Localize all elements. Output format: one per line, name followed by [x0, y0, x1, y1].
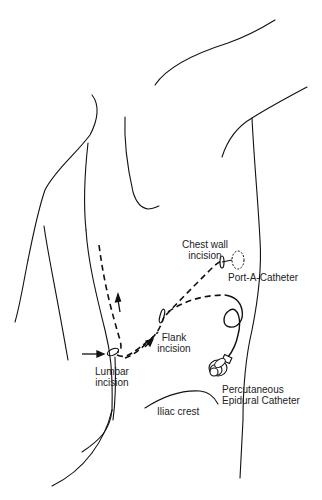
lumbar-pointer-arrow-icon — [97, 351, 104, 357]
armpit-contour — [125, 117, 159, 209]
epidural-connector-icon — [209, 355, 232, 376]
chest-wall-label-line2: incision — [180, 250, 230, 261]
chest-wall-label-line1: Chest wall — [180, 239, 230, 250]
epidural-label-line1: Percutaneous — [222, 384, 300, 395]
buttock-contour — [52, 410, 112, 486]
anatomical-diagram: Chest wall incision Port-A-Catheter Flan… — [0, 0, 322, 500]
front-contour — [240, 118, 261, 478]
epidural-label-line2: Epidural Catheter — [222, 395, 300, 406]
back-contour-outer — [15, 260, 28, 322]
back-line-left — [44, 226, 68, 360]
catheter-coil — [224, 295, 242, 357]
epidural-catheter-label: Percutaneous Epidural Catheter — [222, 384, 300, 406]
flank-incision-label: Flank incision — [152, 332, 196, 354]
flank-label-line2: incision — [152, 343, 196, 354]
flank-incision-icon — [158, 309, 165, 324]
flank-to-chest-path — [166, 261, 222, 315]
lumbar-label-line2: incision — [90, 377, 134, 388]
neck-contour — [155, 20, 275, 85]
port-reservoir-icon — [232, 251, 244, 269]
back-contour-inner — [85, 143, 88, 230]
chest-wall-incision-label: Chest wall incision — [180, 239, 230, 261]
diagram-drawing — [0, 0, 322, 500]
shoulder-contour — [222, 87, 307, 157]
port-a-catheter-label: Port-A-Catheter — [228, 272, 298, 283]
flank-label-line1: Flank — [152, 332, 196, 343]
lumbar-incision-label: Lumbar incision — [90, 366, 134, 388]
lumbar-label-line1: Lumbar — [90, 366, 134, 377]
up-arrow-icon — [116, 294, 121, 302]
iliac-crest-label: Iliac crest — [157, 406, 199, 417]
